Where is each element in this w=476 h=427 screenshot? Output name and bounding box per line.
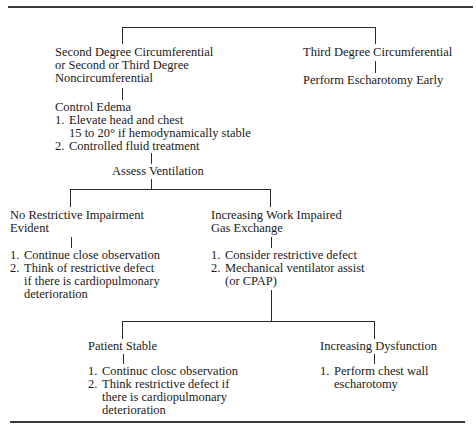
branch-b-title: Third Degree Circumferential [303,46,452,59]
connector-outcome-left [122,321,123,339]
item-number: 2. [211,262,225,275]
item-number: 2. [55,140,69,153]
connector-outcome-bar [122,321,375,322]
connector-edema-to-assess [151,153,152,164]
connector-assess-left [70,189,71,207]
patient-stable-item-2: 2.Think restrictive defect if there is c… [88,378,229,417]
item-text: deterioration [88,404,229,417]
item-text: escharotomy [320,378,428,391]
increasing-work-item-2: 2.Mechanical ventilator assist (or CPAP) [211,262,365,288]
patient-stable-title: Patient Stable [88,340,157,353]
item-text: Perform chest wall [334,364,428,378]
item-text: Continuc closc observation [102,364,238,378]
item-text: Think of restrictive defect [24,261,154,275]
connector-top-bar [122,27,376,28]
connector-assess-right [270,189,271,207]
top-rule [8,6,473,8]
item-text: (or CPAP) [211,275,365,288]
connector-top-right [375,27,376,44]
item-text: Controlled fluid treatment [69,139,200,153]
increasing-work-title: Increasing Work Impaired Gas Exchange [211,209,342,235]
item-number: 2. [10,262,24,275]
connector-assess-stem [151,179,152,189]
connector-work-stem [271,290,272,321]
item-text: Mechanical ventilator assist [225,261,365,275]
control-edema-item-1: 1.Elevate head and chest 15 to 20° if he… [55,114,251,140]
assess-ventilation: Assess Ventilation [112,165,204,178]
connector-increasing-work [271,237,272,248]
connector-assess-bar [70,189,271,190]
connector-b-to-action [375,61,376,73]
item-text: Continue close observation [24,248,160,262]
item-text: Consider restrictive defect [225,248,357,262]
item-number: 2. [88,378,102,391]
increasing-dysfunction-item-1: 1.Perform chest wall escharotomy [320,365,428,391]
no-restrictive-title: No Restrictive Impairment Evident [10,209,144,235]
item-text: deterioration [10,288,160,301]
branch-a-line-3: Noncircumferential [55,72,213,85]
increasing-dysfunction-title: Increasing Dysfunction [320,340,437,353]
no-restrictive-item-2: 2.Think of restrictive defect if there i… [10,262,160,301]
connector-top-left [122,27,123,44]
title-line-2: Gas Exchange [211,222,342,235]
branch-b-action: Perform Escharotomy Early [303,74,443,87]
connector-increasing-dysfunction [374,354,375,364]
item-text: Think restrictive defect if [102,377,229,391]
connector-no-restrictive [71,237,72,248]
control-edema-item-2: 2.Controlled fluid treatment [55,140,200,153]
connector-outcome-right [374,321,375,339]
item-text: Elevate head and chest [69,113,183,127]
branch-a-title: Second Degree Circumferential or Second … [55,46,213,85]
connector-a-to-edema [122,88,123,100]
title-line-2: Evident [10,222,144,235]
bottom-rule [10,421,465,423]
connector-patient-stable [123,354,124,364]
item-number: 1. [55,114,69,127]
item-number: 1. [320,365,334,378]
